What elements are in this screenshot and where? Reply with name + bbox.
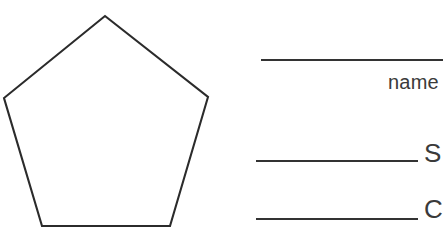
label-sides: S — [424, 140, 441, 166]
answer-blank-line-1[interactable] — [261, 59, 443, 61]
answer-blank-line-3[interactable] — [256, 218, 418, 220]
worksheet-page: name S C — [0, 0, 443, 249]
answer-blanks-area: name S C — [0, 0, 443, 249]
label-name: name — [388, 72, 439, 92]
label-corners: C — [424, 196, 443, 222]
answer-blank-line-2[interactable] — [256, 160, 418, 162]
